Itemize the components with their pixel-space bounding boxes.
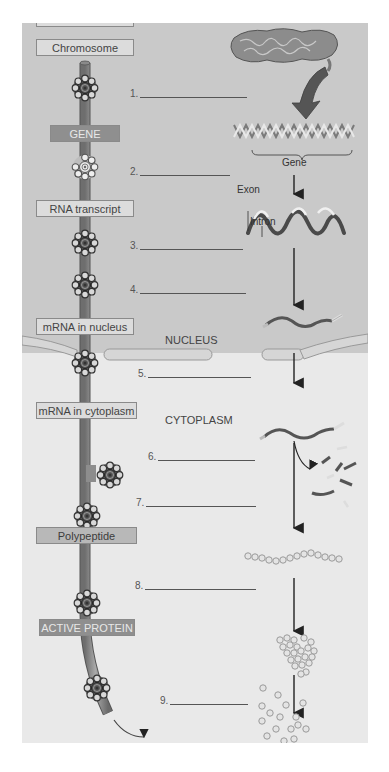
answer-line[interactable]	[170, 704, 248, 705]
nucleus-label: NUCLEUS	[165, 334, 218, 346]
mrna-cytoplasm-icon	[260, 423, 344, 439]
stage-label-active-protein: ACTIVE PROTEIN	[39, 619, 135, 636]
blank-9[interactable]: 9.	[160, 695, 168, 706]
answer-line[interactable]	[140, 97, 247, 98]
cytoplasm-label: CYTOPLASM	[165, 414, 233, 426]
mrna-nucleus-icon	[263, 315, 342, 327]
exon-annotation: Exon	[237, 184, 260, 195]
answer-line[interactable]	[146, 506, 256, 507]
dispersed-proteins-icon	[259, 685, 309, 743]
blank-5[interactable]: 5.	[138, 368, 146, 379]
gene-annotation: Gene	[282, 157, 306, 168]
stage-label-mrna-nucleus: mRNA in nucleus	[36, 318, 134, 335]
blank-number: 3.	[130, 240, 138, 251]
blank-number: 8.	[135, 580, 143, 591]
answer-line[interactable]	[158, 460, 255, 461]
dna-helix-icon	[234, 125, 354, 137]
blank-6[interactable]: 6.	[148, 451, 156, 462]
stage-label-rna-transcript: RNA transcript	[36, 200, 134, 217]
control-valve-1	[72, 75, 98, 101]
blank-number: 5.	[138, 368, 146, 379]
stage-label-mrna-cytoplasm: mRNA in cytoplasm	[36, 402, 137, 419]
chromatin-icon	[231, 29, 338, 71]
stage-label-chromosome	[36, 23, 134, 27]
blank-number: 9.	[160, 695, 168, 706]
answer-line[interactable]	[140, 175, 230, 176]
polypeptide-icon	[245, 550, 342, 564]
blank-number: 7.	[136, 497, 144, 508]
blank-2[interactable]: 2.	[130, 166, 138, 177]
blank-number: 4.	[130, 284, 138, 295]
answer-line[interactable]	[140, 293, 246, 294]
blank-number: 6.	[148, 451, 156, 462]
answer-line[interactable]	[145, 589, 256, 590]
blank-number: 1.	[130, 88, 138, 99]
blank-7[interactable]: 7.	[136, 497, 144, 508]
stage-label-polypeptide: Polypeptide	[36, 527, 137, 544]
stage-label-gene: GENE	[50, 125, 120, 142]
blank-number: 2.	[130, 166, 138, 177]
blank-8[interactable]: 8.	[135, 580, 143, 591]
stage-label-chromosome: Chromosome	[36, 39, 134, 56]
folded-protein-icon	[277, 635, 317, 677]
intron-annotation: Intron	[250, 216, 276, 227]
blank-4[interactable]: 4.	[130, 284, 138, 295]
mrna-degradation-icon	[294, 441, 356, 507]
answer-line[interactable]	[140, 249, 243, 250]
blank-1[interactable]: 1.	[130, 88, 138, 99]
answer-line[interactable]	[148, 377, 251, 378]
blank-3[interactable]: 3.	[130, 240, 138, 251]
